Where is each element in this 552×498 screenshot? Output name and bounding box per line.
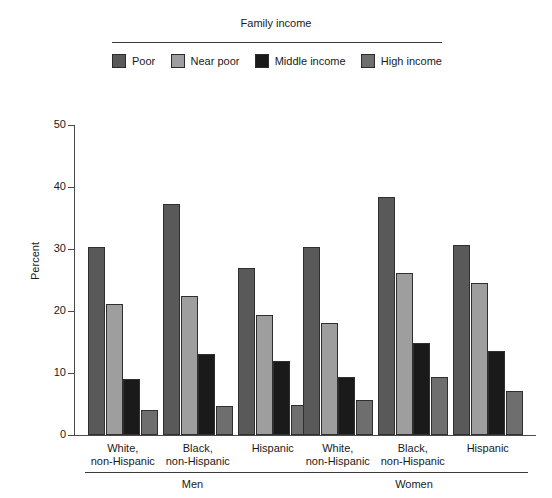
bar	[471, 283, 488, 435]
category-label-line1: White,	[322, 442, 353, 454]
legend: PoorNear poorMiddle incomeHigh income	[112, 50, 442, 72]
plot-area	[75, 125, 535, 435]
bar	[106, 304, 123, 435]
legend-divider	[112, 42, 442, 43]
legend-item-poor: Poor	[112, 54, 155, 68]
legend-item-high_income: High income	[361, 54, 442, 68]
bar	[216, 406, 233, 435]
legend-item-middle_income: Middle income	[255, 54, 346, 68]
legend-swatch-near_poor	[171, 54, 185, 68]
y-tick-40	[68, 187, 75, 188]
legend-label-high_income: High income	[381, 55, 442, 67]
bar	[256, 315, 273, 435]
legend-title: Family income	[0, 17, 552, 29]
y-axis-title: Percent	[29, 216, 41, 306]
bar	[453, 245, 470, 435]
y-tick-10	[68, 373, 75, 374]
category-label-line1: Hispanic	[467, 442, 509, 454]
section-label: Women	[300, 478, 528, 490]
section-label: Men	[85, 478, 300, 490]
legend-label-middle_income: Middle income	[275, 55, 346, 67]
bar	[356, 400, 373, 435]
bar	[413, 343, 430, 435]
category-label-line1: White,	[107, 442, 138, 454]
bar-chart: Family income PoorNear poorMiddle income…	[0, 0, 552, 498]
bar	[123, 379, 140, 435]
legend-swatch-middle_income	[255, 54, 269, 68]
section-divider	[300, 472, 528, 473]
section-divider	[85, 472, 300, 473]
bar	[321, 323, 338, 435]
legend-swatch-poor	[112, 54, 126, 68]
y-tick-label-0: 0	[40, 428, 66, 440]
bar	[396, 273, 413, 435]
legend-swatch-high_income	[361, 54, 375, 68]
y-tick-50	[68, 125, 75, 126]
bar	[273, 361, 290, 435]
category-label-line2: non-Hispanic	[153, 455, 243, 468]
legend-item-near_poor: Near poor	[171, 54, 240, 68]
bar	[198, 354, 215, 435]
category-label-line2: non-Hispanic	[368, 455, 458, 468]
y-tick-label-50: 50	[40, 118, 66, 130]
bar	[431, 377, 448, 435]
y-tick-label-20: 20	[40, 304, 66, 316]
bar	[141, 410, 158, 435]
y-tick-20	[68, 311, 75, 312]
x-axis-line	[74, 435, 536, 436]
legend-label-near_poor: Near poor	[191, 55, 240, 67]
bar	[163, 204, 180, 435]
legend-label-poor: Poor	[132, 55, 155, 67]
category-label-line1: Hispanic	[252, 442, 294, 454]
bar	[303, 247, 320, 435]
y-tick-label-10: 10	[40, 366, 66, 378]
bar	[238, 268, 255, 435]
y-tick-0	[68, 435, 75, 436]
bar	[378, 197, 395, 435]
category-label-line1: Black,	[183, 442, 213, 454]
bar	[488, 351, 505, 435]
y-tick-label-40: 40	[40, 180, 66, 192]
category-label: Hispanic	[443, 442, 533, 455]
bar	[338, 377, 355, 435]
category-label-line1: Black,	[398, 442, 428, 454]
bar	[506, 391, 523, 435]
y-tick-label-30: 30	[40, 242, 66, 254]
bar	[88, 247, 105, 435]
bar	[181, 296, 198, 435]
y-tick-30	[68, 249, 75, 250]
